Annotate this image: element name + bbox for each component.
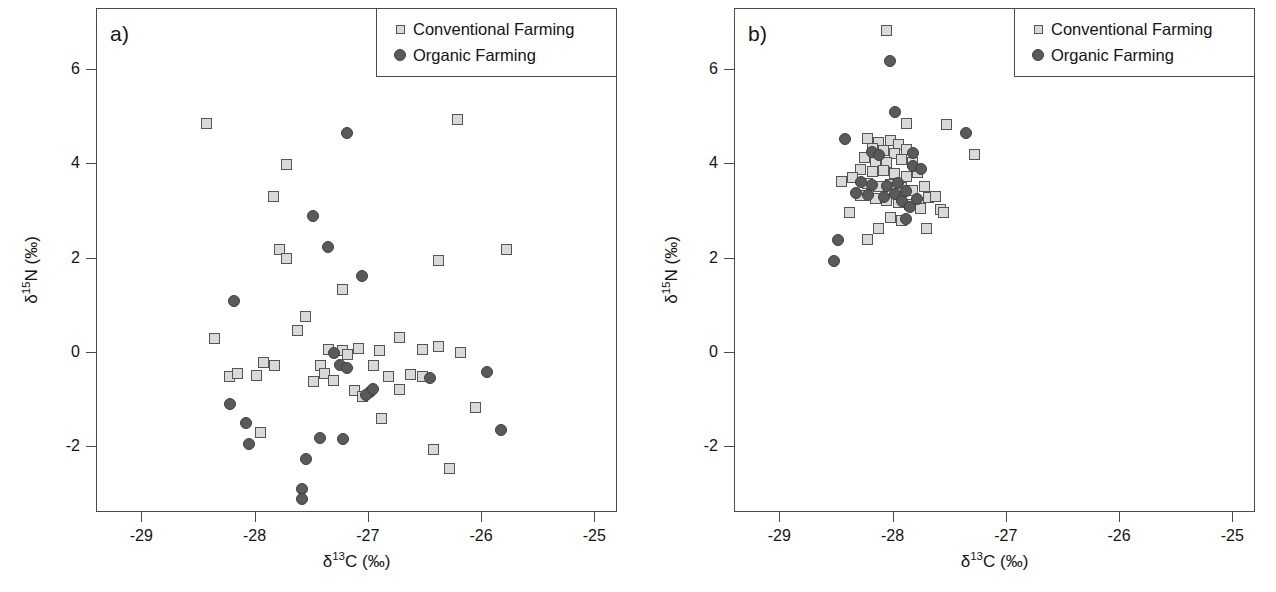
y-tick [724,352,734,353]
legend-a: Conventional Farming Organic Farming [376,8,617,77]
filled-circle-marker-icon [387,49,413,61]
data-point-organic [884,55,896,67]
x-tick [481,512,482,522]
data-point-organic [832,234,844,246]
data-point-conventional [969,149,980,160]
data-point-organic [960,127,972,139]
panel-b: b) 6420-2 -29-28-27-26-25 δ13C (‰) δ15N … [638,0,1276,592]
data-point-conventional [433,341,444,352]
data-point-conventional [281,253,292,264]
x-tick [893,512,894,522]
data-point-conventional [428,444,439,455]
data-point-conventional [867,166,878,177]
data-point-organic [900,213,912,225]
data-point-organic [915,163,927,175]
data-point-conventional [251,370,262,381]
isotope-scatter-figure: a) 6420-2 -29-28-27-26-25 δ13C (‰) δ15N … [0,0,1276,592]
x-tick [779,512,780,522]
x-tick-label: -27 [333,527,403,545]
data-point-conventional [394,332,405,343]
filled-circle-marker-icon [1025,49,1051,61]
x-tick-label: -26 [1084,527,1154,545]
data-point-conventional [383,371,394,382]
data-point-organic [228,295,240,307]
data-point-conventional [470,402,481,413]
data-point-conventional [417,344,428,355]
data-point-organic [337,433,349,445]
x-tick [368,512,369,522]
data-point-organic [307,210,319,222]
data-point-organic [839,133,851,145]
y-tick [86,352,96,353]
data-point-conventional [896,154,907,165]
data-point-conventional [268,191,279,202]
x-tick [594,512,595,522]
data-point-conventional [232,368,243,379]
x-tick-label: -28 [220,527,290,545]
y-tick [724,258,734,259]
data-point-conventional [938,207,949,218]
y-tick [86,163,96,164]
data-point-conventional [844,207,855,218]
y-tick [724,69,734,70]
x-tick [1119,512,1120,522]
data-point-conventional [836,176,847,187]
x-tick-label: -27 [971,527,1041,545]
data-point-conventional [368,360,379,371]
data-point-conventional [919,181,930,192]
data-point-conventional [455,347,466,358]
data-point-conventional [209,333,220,344]
data-point-conventional [921,223,932,234]
data-point-organic [328,347,340,359]
data-point-organic [367,383,379,395]
data-point-conventional [328,375,339,386]
plot-area-a [96,8,617,512]
legend-label-organic: Organic Farming [413,46,536,65]
x-tick [141,512,142,522]
data-point-organic [424,372,436,384]
data-point-organic [341,127,353,139]
legend-row-organic-a: Organic Farming [387,42,604,68]
data-point-organic [322,241,334,253]
data-point-conventional [862,234,873,245]
y-axis-title-a: δ15N (‰) [22,150,42,390]
data-point-conventional [885,212,896,223]
data-point-organic [356,270,368,282]
data-point-conventional [342,349,353,360]
y-tick [86,258,96,259]
data-point-organic [873,149,885,161]
panel-a: a) 6420-2 -29-28-27-26-25 δ13C (‰) δ15N … [0,0,638,592]
data-point-conventional [878,165,889,176]
data-point-organic [495,424,507,436]
data-point-organic [850,187,862,199]
x-tick [1006,512,1007,522]
data-point-conventional [405,369,416,380]
legend-row-conventional-b: Conventional Farming [1025,16,1242,42]
x-tick-label: -29 [744,527,814,545]
data-point-organic [314,432,326,444]
x-tick-label: -26 [446,527,516,545]
y-tick [86,446,96,447]
data-point-conventional [300,311,311,322]
legend-row-conventional-a: Conventional Farming [387,16,604,42]
data-point-organic [828,255,840,267]
data-point-conventional [930,191,941,202]
x-axis-title-b: δ13C (‰) [734,552,1255,572]
data-point-organic [224,398,236,410]
data-point-organic [300,453,312,465]
x-tick-label: -25 [1197,527,1267,545]
data-point-conventional [394,384,405,395]
data-point-conventional [376,413,387,424]
x-tick-label: -25 [559,527,629,545]
x-tick [1232,512,1233,522]
y-tick [724,163,734,164]
legend-row-organic-b: Organic Farming [1025,42,1242,68]
y-tick [86,69,96,70]
data-point-organic [878,191,890,203]
data-point-conventional [501,244,512,255]
data-point-conventional [881,25,892,36]
data-point-organic [889,106,901,118]
data-point-conventional [452,114,463,125]
y-axis-title-b: δ15N (‰) [662,150,682,390]
legend-label-organic: Organic Farming [1051,46,1174,65]
